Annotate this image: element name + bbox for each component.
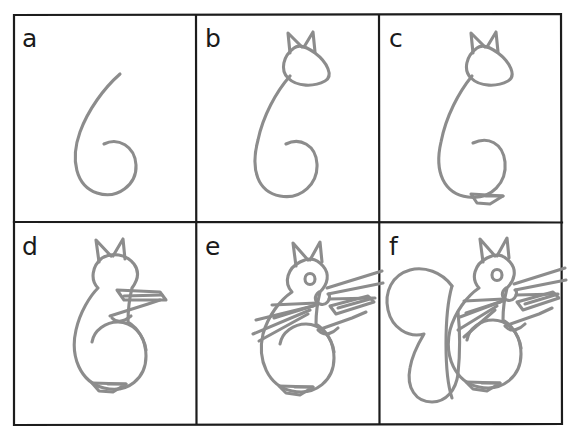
panel-label-c: c bbox=[389, 26, 403, 51]
tutorial-figure: a b c d e f bbox=[0, 0, 577, 438]
sheet-background bbox=[0, 0, 577, 438]
arm-upper-inner bbox=[124, 295, 162, 296]
drawing-sheet bbox=[0, 0, 577, 438]
divider-horizontal-1 bbox=[14, 222, 562, 223]
divider-vertical-1 bbox=[196, 15, 197, 424]
panel-label-e: e bbox=[205, 234, 220, 259]
panel-label-f: f bbox=[389, 234, 398, 259]
panel-label-d: d bbox=[22, 234, 38, 259]
whisker-lower-2 bbox=[464, 299, 504, 301]
whisker-lower-2 bbox=[272, 303, 317, 305]
panel-label-a: a bbox=[22, 26, 37, 51]
panel-label-b: b bbox=[205, 26, 221, 51]
divider-vertical-2 bbox=[379, 15, 380, 424]
